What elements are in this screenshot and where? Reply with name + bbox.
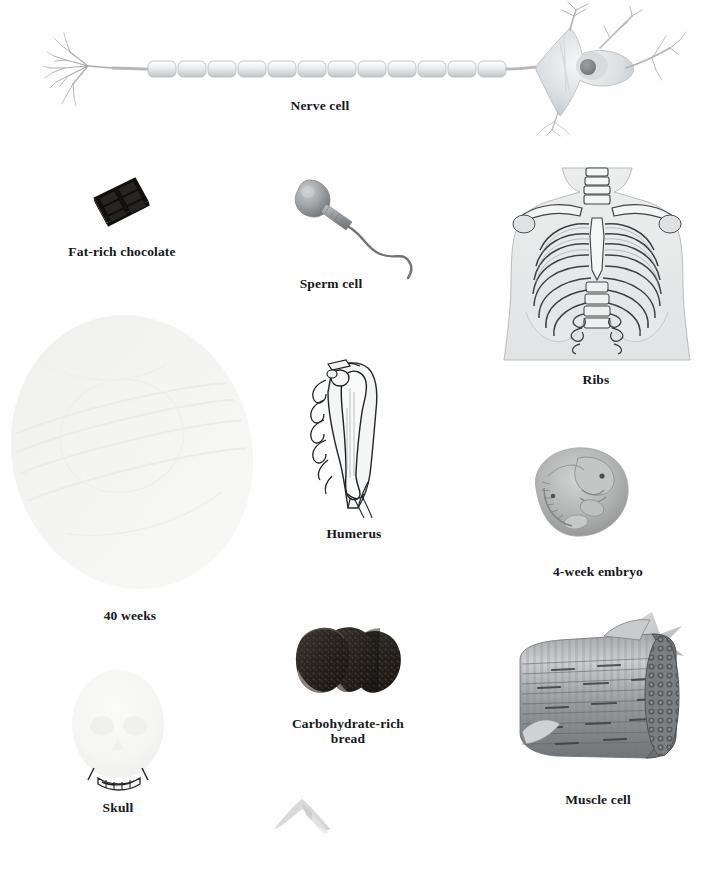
otic-vesicle — [551, 494, 555, 498]
carbohydrate-rich-bread-caption: Carbohydrate-richbread — [250, 716, 446, 747]
fat-rich-chocolate-caption: Fat-rich chocolate — [24, 244, 220, 259]
skull-illustration — [62, 668, 174, 798]
ribs-caption: Ribs — [496, 372, 696, 387]
four-week-embryo-illustration — [520, 442, 642, 542]
uterus-outline — [0, 289, 282, 615]
sperm-cell-illustration — [286, 174, 431, 279]
sperm-cell-caption: Sperm cell — [236, 276, 426, 291]
forty-weeks-fetus-illustration — [6, 306, 258, 598]
dendrite-branches-bottom — [538, 112, 570, 136]
four-week-embryo-caption: 4-week embryo — [498, 564, 698, 579]
sperm-midpiece — [321, 204, 352, 230]
axon-initial-segment — [112, 68, 148, 69]
ribs-illustration — [492, 162, 702, 367]
figure-plate-page: Nerve cell Fat-rich chocolate — [0, 0, 708, 878]
bread-caption-line-2: bread — [331, 731, 365, 746]
muscle-cell-caption: Muscle cell — [498, 792, 698, 807]
myelin-sheath-segments — [148, 61, 506, 77]
carbohydrate-rich-bread-illustration — [288, 618, 408, 708]
nucleus — [580, 59, 596, 75]
muscle-cell-illustration — [512, 608, 697, 788]
optic-vesicle — [599, 473, 604, 478]
cervical-vertebrae — [584, 168, 610, 204]
fat-rich-chocolate-illustration — [86, 172, 158, 234]
nerve-cell-illustration — [40, 8, 680, 133]
dendrite-branches-right — [626, 32, 686, 80]
sperm-flagellum — [349, 227, 411, 278]
sternum — [590, 218, 604, 280]
neuron-soma — [536, 28, 634, 116]
nerve-cell-caption: Nerve cell — [214, 98, 426, 113]
humerus-illustration — [302, 358, 400, 518]
axon-hillock-segment — [506, 67, 536, 69]
faint-chevron-artifact — [268, 795, 348, 837]
bread-caption-line-1: Carbohydrate-rich — [292, 716, 404, 731]
forty-weeks-caption: 40 weeks — [30, 608, 230, 623]
humerus-caption: Humerus — [256, 526, 452, 541]
skull-caption: Skull — [18, 800, 218, 815]
dendrite-branches-left — [43, 33, 112, 106]
myofibril-cross-section — [645, 636, 679, 756]
